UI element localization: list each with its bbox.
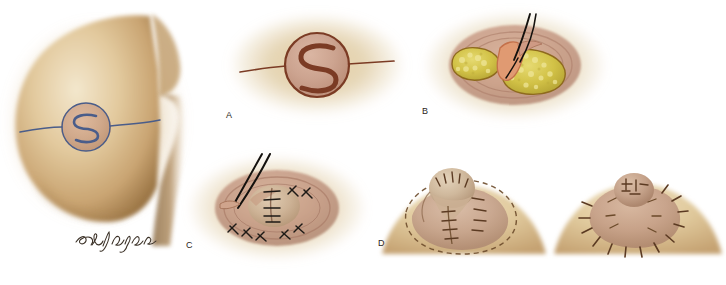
panel-label-b: B bbox=[422, 106, 429, 116]
panel-b-art bbox=[422, 8, 608, 128]
panel-e-final-result bbox=[552, 158, 726, 274]
panel-c bbox=[186, 150, 368, 270]
panel-c-art bbox=[186, 150, 368, 270]
panel-d bbox=[378, 158, 554, 274]
panel-d-art bbox=[378, 158, 554, 274]
panel-overview bbox=[0, 10, 210, 250]
panel-overview-art bbox=[0, 10, 210, 250]
panel-label-a: A bbox=[226, 110, 233, 120]
panel-b bbox=[422, 8, 608, 128]
artist-signature bbox=[72, 224, 164, 258]
signature-strokes bbox=[72, 224, 164, 258]
panel-label-c: C bbox=[186, 240, 193, 250]
figure-canvas: A bbox=[0, 0, 726, 285]
panel-a bbox=[228, 14, 406, 126]
panel-e-art bbox=[552, 158, 726, 274]
panel-label-d: D bbox=[378, 238, 385, 248]
panel-a-art bbox=[228, 14, 406, 126]
